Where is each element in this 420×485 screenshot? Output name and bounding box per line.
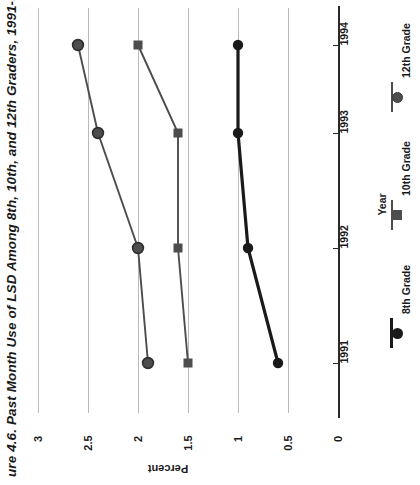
data-point-12th-grade-1994[interactable] (73, 40, 84, 51)
data-point-8th-grade-1991[interactable] (273, 358, 283, 368)
legend-label-12th-grade: 12th Grade (400, 0, 413, 78)
data-point-10th-grade-1993[interactable] (174, 129, 183, 138)
legend-item-8th-grade[interactable]: 8th Grade (372, 278, 420, 398)
data-point-12th-grade-1992[interactable] (133, 243, 144, 254)
data-point-8th-grade-1993[interactable] (233, 128, 243, 138)
legend-marker-square-10th-grade (392, 210, 402, 220)
chart-legend: 8th Grade 10th Grade 12th Grade (372, 0, 420, 420)
data-point-12th-grade-1993[interactable] (93, 128, 104, 139)
series-8th-grade (233, 40, 283, 368)
data-point-10th-grade-1991[interactable] (184, 359, 193, 368)
data-point-8th-grade-1994[interactable] (233, 40, 243, 50)
legend-marker-circle-8th-grade (392, 328, 403, 339)
legend-item-10th-grade[interactable]: 10th Grade (372, 160, 420, 280)
data-point-12th-grade-1991[interactable] (143, 358, 154, 369)
series-10th-grade (134, 41, 193, 368)
series-12th-grade (73, 40, 154, 369)
legend-marker-circle-12th-grade (392, 92, 403, 103)
data-point-8th-grade-1992[interactable] (243, 243, 253, 253)
data-point-10th-grade-1992[interactable] (174, 244, 183, 253)
series-line-8th-grade (238, 45, 278, 363)
series-line-10th-grade (138, 45, 188, 363)
series-overlay (0, 0, 420, 485)
chart-plot-area: 3 2.5 2 1.5 1 0.5 0 Percent 1991 1992 19… (0, 0, 420, 485)
series-line-12th-grade (78, 45, 148, 363)
data-point-10th-grade-1994[interactable] (134, 41, 143, 50)
legend-item-12th-grade[interactable]: 12th Grade (372, 42, 420, 162)
